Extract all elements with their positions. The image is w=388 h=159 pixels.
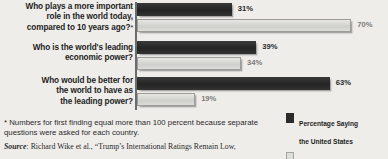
category-label-line: role in the world today, <box>46 12 133 21</box>
bar-value-china: 70% <box>357 20 372 29</box>
legend-item-china[interactable]: Percentage Saying China <box>286 151 386 159</box>
category-label-line: compared to 10 years ago? <box>27 23 131 32</box>
source-line: Source: Richard Wike et al., “Trump’s In… <box>4 142 334 152</box>
category-label-line: the leading power? <box>60 97 133 106</box>
category-label-line: the world to have as <box>56 86 133 95</box>
legend-label-line: Percentage Saying <box>299 120 358 127</box>
plot-area: Who plays a more important role in the w… <box>0 0 388 112</box>
bar-value-china: 19% <box>201 94 216 103</box>
bar-group: Who is the world's leading economic powe… <box>0 40 388 74</box>
source-body: : Richard Wike et al., “Trump’s Internat… <box>27 142 236 151</box>
bar-value-us: 63% <box>336 78 351 87</box>
bar-us[interactable] <box>137 3 232 16</box>
category-label: Who is the world's leading economic powe… <box>3 43 133 64</box>
bar-group: Who plays a more important role in the w… <box>0 2 388 38</box>
bar-value-us: 31% <box>238 4 253 13</box>
category-label: Who would be better for the world to hav… <box>3 76 133 107</box>
footnote-text: * Numbers for first finding equal more t… <box>4 118 282 138</box>
category-label-line: Who would be better for <box>42 76 133 85</box>
bar-value-china: 34% <box>247 58 262 67</box>
bar-china[interactable] <box>137 19 351 32</box>
category-label-line: economic power? <box>65 53 133 62</box>
legend-swatch-icon-china <box>286 152 294 159</box>
bar-group: Who would be better for the world to hav… <box>0 76 388 110</box>
bar-china[interactable] <box>137 57 241 70</box>
source-prefix: Source <box>4 142 27 151</box>
legend-swatch-icon-us <box>286 113 294 123</box>
footnote-marker-icon: * <box>130 24 133 31</box>
bar-value-us: 39% <box>262 42 277 51</box>
bar-us[interactable] <box>137 77 330 90</box>
bar-us[interactable] <box>137 41 256 54</box>
category-label-line: Who plays a more important <box>26 2 134 11</box>
category-label-line: Who is the world's leading <box>33 43 133 52</box>
bar-china[interactable] <box>137 93 195 106</box>
chart-container: Who plays a more important role in the w… <box>0 0 388 159</box>
category-label: Who plays a more important role in the w… <box>3 2 133 33</box>
